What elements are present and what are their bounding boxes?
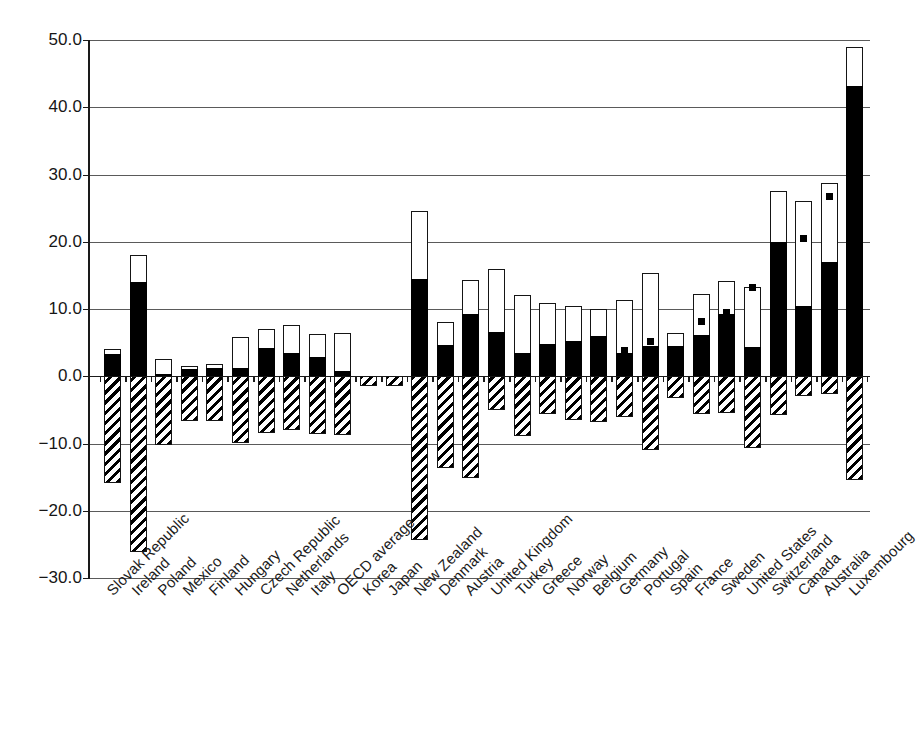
bar-group[interactable] [718,40,735,578]
bar-group[interactable] [744,40,761,578]
x-axis-minor-tick [228,376,229,382]
bar-group[interactable] [206,40,223,578]
bar-segment-hatched [206,376,223,421]
bar-segment-hatched [667,376,684,398]
y-axis-tick [83,444,90,445]
bar-group[interactable] [565,40,582,578]
x-axis-minor-tick [305,376,306,382]
bar-segment-hatched [488,376,505,410]
bar-segment-hatched [616,376,633,417]
bar-segment-hatched [744,376,761,447]
x-axis-minor-tick [484,376,485,382]
bar-group[interactable] [334,40,351,578]
bar-segment-hatched [642,376,659,449]
bar-segment-hatched [590,376,607,422]
bar-group[interactable] [539,40,556,578]
bar-group[interactable] [411,40,428,578]
x-axis-minor-tick [791,376,792,382]
bar-segment-hatched [258,376,275,432]
bar-group[interactable] [795,40,812,578]
bar-group[interactable] [181,40,198,578]
bar-group[interactable] [514,40,531,578]
bar-group[interactable] [462,40,479,578]
x-axis-minor-tick [766,376,767,382]
x-axis-minor-tick [535,376,536,382]
y-axis-tick [83,511,90,512]
bar-segment-black [590,336,607,376]
bar-segment-black [539,344,556,376]
bar-group[interactable] [155,40,172,578]
x-axis-minor-tick [612,376,613,382]
y-axis-tick [83,175,90,176]
bar-group[interactable] [232,40,249,578]
data-point-marker [749,284,756,291]
x-axis-minor-tick [177,376,178,382]
y-axis-tick [83,242,90,243]
bar-group[interactable] [488,40,505,578]
bar-segment-hatched [411,376,428,539]
bar-group[interactable] [616,40,633,578]
data-point-marker [698,318,705,325]
bar-group[interactable] [309,40,326,578]
x-axis-minor-tick [510,376,511,382]
bar-group[interactable] [846,40,863,578]
bar-group[interactable] [821,40,838,578]
x-axis-minor-tick [407,376,408,382]
bar-group[interactable] [642,40,659,578]
x-axis-minor-tick [586,376,587,382]
x-axis-minor-tick [714,376,715,382]
y-axis-tick-label: 20.0 [10,232,82,252]
bar-segment-hatched [130,376,147,552]
bar-segment-black [232,368,249,377]
bar-segment-black [181,369,198,376]
bar-segment-hatched [693,376,710,414]
bar-segment-black [104,354,121,376]
x-axis-minor-tick [330,376,331,382]
bar-group[interactable] [130,40,147,578]
bar-group[interactable] [590,40,607,578]
bar-group[interactable] [437,40,454,578]
data-point-marker [800,235,807,242]
bar-segment-hatched [718,376,735,413]
bar-segment-black [283,353,300,377]
bar-segment-black [206,368,223,376]
bar-group[interactable] [770,40,787,578]
y-axis-tick-label: 10.0 [10,299,82,319]
bar-segment-black [258,348,275,376]
x-axis-minor-tick [817,376,818,382]
bar-segment-black [642,346,659,376]
bar-segment-black [616,353,633,376]
bar-group[interactable] [386,40,403,578]
bar-segment-black [437,345,454,376]
bar-segment-hatched [360,376,377,385]
data-point-marker [647,338,654,345]
bar-group[interactable] [283,40,300,578]
x-axis-minor-tick [663,376,664,382]
bar-segment-black [693,335,710,377]
bar-group[interactable] [693,40,710,578]
y-axis-tick-label: −20.0 [10,501,82,521]
x-axis-minor-tick [100,376,101,382]
x-axis-minor-tick [458,376,459,382]
bar-segment-hatched [386,376,403,386]
bar-group[interactable] [667,40,684,578]
bar-segment-hatched [770,376,787,414]
y-axis-labels: 50.040.030.020.010.00.0−10.0−20.0−30.0 [0,40,82,578]
x-axis-minor-tick [126,376,127,382]
bar-segment-hatched [462,376,479,478]
y-axis-tick-label: 0.0 [10,366,82,386]
bar-segment-black [309,357,326,377]
bar-segment-black [770,242,787,377]
bar-group[interactable] [104,40,121,578]
x-axis-minor-tick [356,376,357,382]
data-point-marker [826,193,833,200]
bar-segment-hatched [795,376,812,396]
bar-group[interactable] [360,40,377,578]
bar-segment-hatched [181,376,198,421]
data-point-marker [723,309,730,316]
bar-group[interactable] [258,40,275,578]
bar-segment-hatched [334,376,351,435]
y-axis-tick-label: 50.0 [10,30,82,50]
data-point-marker [621,347,628,354]
